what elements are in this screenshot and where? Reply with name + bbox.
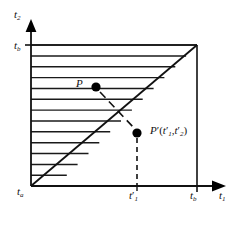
y-axis-arrowhead (26, 19, 37, 32)
y-axis-label: t2 (14, 9, 21, 22)
origin-label-ta: ta (17, 186, 24, 199)
point-pprime-marker (132, 128, 141, 137)
x-axis-label: t1 (219, 190, 226, 203)
hatch-fill-group (31, 45, 197, 175)
point-p-label: P (76, 78, 83, 89)
figure-canvas: t2 tb ta t′1 tb t1 P P′(t′1,t′2) (0, 0, 248, 226)
x-axis-tick-label-t1-prime: t′1 (129, 190, 138, 203)
point-p-marker (91, 82, 100, 91)
y-axis-tick-label-tb: tb (14, 40, 21, 53)
point-pprime-label: P′(t′1,t′2) (150, 125, 187, 138)
diagram-svg (0, 0, 248, 226)
x-axis-tick-label-tb: tb (190, 190, 197, 203)
